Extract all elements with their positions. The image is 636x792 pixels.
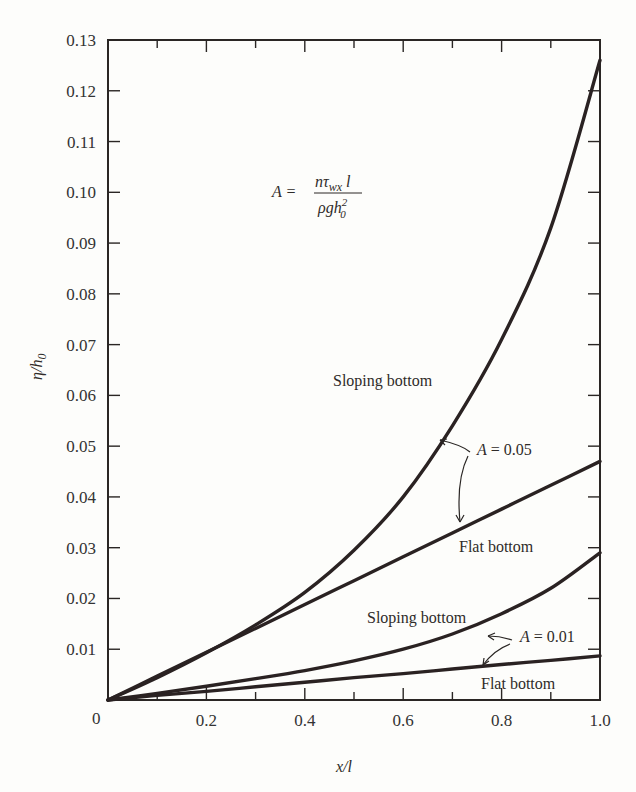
x-axis-title: x/l [335, 758, 353, 775]
formula-numerator: nτwx l [315, 173, 351, 194]
y-tick-label: 0.13 [66, 31, 96, 50]
label-A-001: A = 0.01 [519, 628, 575, 645]
y-axis-title-main: η/h [28, 360, 46, 380]
y-tick-label: 0.03 [66, 539, 96, 558]
y-tick-label: 0.05 [66, 437, 96, 456]
x-tick-labels: 0.20.40.60.81.0 [196, 711, 611, 730]
curve-series-1 [108, 461, 600, 700]
y-axis-title-sub: 0 [35, 354, 49, 360]
x-tick-label: 0.6 [393, 711, 414, 730]
x-tick-label: 0.8 [491, 711, 512, 730]
y-tick-label: 0.02 [66, 589, 96, 608]
label-A-005: A = 0.05 [476, 441, 532, 458]
y-tick-label: 0.07 [66, 336, 96, 355]
x-tick-label: 0.4 [294, 711, 316, 730]
arrow-A-005 [440, 439, 470, 522]
x-tick-label: 1.0 [589, 711, 610, 730]
origin-label: 0 [92, 709, 101, 728]
y-axis-title: η/h0 [28, 354, 49, 380]
label-sloping-bottom-005: Sloping bottom [333, 372, 433, 390]
formula-denominator: ρgh20 [317, 196, 348, 220]
y-tick-label: 0.11 [67, 133, 96, 152]
y-tick-labels: 0.010.020.030.040.050.060.070.080.090.10… [66, 31, 96, 659]
chart: 0.010.020.030.040.050.060.070.080.090.10… [0, 0, 636, 792]
y-tick-label: 0.04 [66, 488, 96, 507]
y-tick-label: 0.01 [66, 640, 96, 659]
x-tick-label: 0.2 [196, 711, 217, 730]
arrow-A-001 [483, 633, 512, 665]
formula-lhs: A = [271, 183, 296, 200]
svg-text:η/h0: η/h0 [28, 354, 49, 380]
label-flat-bottom-001: Flat bottom [481, 675, 556, 692]
y-tick-label: 0.06 [66, 386, 96, 405]
y-tick-label: 0.08 [66, 285, 96, 304]
label-flat-bottom-005: Flat bottom [459, 538, 534, 555]
y-tick-label: 0.12 [66, 82, 96, 101]
y-tick-label: 0.09 [66, 234, 96, 253]
y-tick-label: 0.10 [66, 183, 96, 202]
label-sloping-bottom-001: Sloping bottom [367, 609, 467, 627]
formula-A: A = nτwx l ρgh20 [271, 173, 362, 220]
